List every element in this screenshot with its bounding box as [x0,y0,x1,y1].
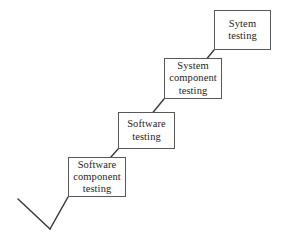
stage-box-software-testing[interactable]: Software testing [118,112,175,149]
diagram-canvas: Software component testing Software test… [0,0,285,247]
stage-box-system-component-testing[interactable]: System component testing [164,58,222,99]
stage-box-label: Sytem testing [226,18,259,42]
stage-box-label: Software component testing [71,159,123,196]
stage-box-label: Software testing [125,118,168,142]
stage-box-sytem-testing[interactable]: Sytem testing [214,10,271,50]
connector-software-component-to-vertex [50,197,68,229]
stage-box-software-component-testing[interactable]: Software component testing [68,157,126,197]
stage-box-label: System component testing [167,60,219,97]
connector-v-left-arm [18,199,50,229]
